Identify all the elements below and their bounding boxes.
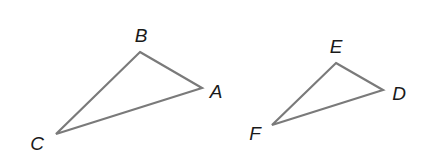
vertex-label-b: B bbox=[135, 25, 148, 46]
triangle-def bbox=[272, 63, 383, 125]
triangles-figure: B A C E D F bbox=[0, 0, 435, 163]
vertex-label-c: C bbox=[30, 133, 44, 154]
vertex-label-d: D bbox=[392, 83, 406, 104]
diagram-canvas: B A C E D F bbox=[0, 0, 435, 163]
triangle-abc bbox=[56, 52, 202, 134]
vertex-label-e: E bbox=[330, 36, 343, 57]
vertex-label-f: F bbox=[249, 123, 262, 144]
vertex-label-a: A bbox=[209, 81, 223, 102]
